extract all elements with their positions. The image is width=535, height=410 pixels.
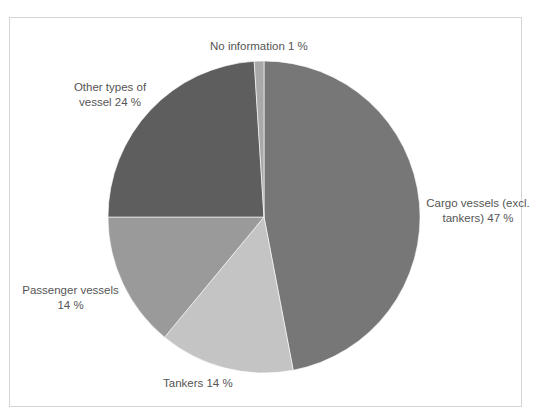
label-tankers-text: Tankers 14 % [163,377,233,389]
label-other-types: Other types of vessel 24 % [60,80,160,110]
label-no-information: No information 1 % [210,39,308,54]
pie-slice-cargo-vessels-excl-tankers [264,61,420,370]
label-cargo-line1: Cargo vessels (excl. [418,196,535,211]
label-passenger-line1: Passenger vessels [18,283,123,298]
label-tankers: Tankers 14 % [163,376,233,391]
label-passenger-vessels: Passenger vessels 14 % [18,283,123,313]
label-no-information-text: No information 1 % [210,40,308,52]
label-cargo-vessels: Cargo vessels (excl. tankers) 47 % [418,196,535,226]
label-other-line1: Other types of [60,80,160,95]
label-cargo-line2: tankers) 47 % [418,211,535,226]
label-passenger-line2: 14 % [18,298,123,313]
label-other-line2: vessel 24 % [60,95,160,110]
